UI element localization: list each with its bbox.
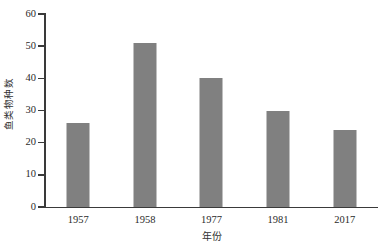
y-axis-tick-mark [38,142,44,143]
bar-1981[interactable] [267,111,290,208]
x-axis-tick-label: 1957 [68,214,89,225]
y-axis-title-text: 鱼类物种数 [1,77,15,130]
y-axis-tick-label: 0 [0,202,36,213]
y-axis-tick-label: 30 [0,105,36,116]
x-axis-tick-label: 1958 [134,214,155,225]
y-axis-tick-mark [38,78,44,79]
bar-slot [45,14,112,207]
y-axis-tick-mark [38,13,44,14]
x-axis-tick-label: 1981 [268,214,289,225]
y-axis-tick-mark [38,110,44,111]
bar-slot [245,14,312,207]
x-axis-tick-slot: 1957 [45,208,112,230]
bar-slot [112,14,179,207]
y-axis-tick-label: 40 [0,73,36,84]
x-axis-tick-label: 2017 [334,214,355,225]
y-axis-tick-label: 20 [0,137,36,148]
bar-1957[interactable] [67,123,90,207]
x-axis-ticks: 19571958197719812017 [45,208,378,230]
y-axis-tick-mark [38,206,44,207]
bar-slot [311,14,378,207]
bar-1977[interactable] [200,78,223,207]
y-axis-tick-label: 50 [0,41,36,52]
bars-layer [45,14,378,207]
bar-1958[interactable] [133,43,156,207]
bar-2017[interactable] [333,130,356,207]
x-axis-tick-label: 1977 [201,214,222,225]
x-axis-title: 年份 [45,228,378,243]
bar-chart: 鱼类物种数 0102030405060 19571958197719812017… [0,0,385,252]
y-axis-tick-mark [38,174,44,175]
y-axis-tick-label: 10 [0,169,36,180]
x-axis-tick-slot: 1977 [178,208,245,230]
x-axis-tick-slot: 2017 [311,208,378,230]
x-axis-tick-slot: 1981 [245,208,312,230]
bar-slot [178,14,245,207]
y-axis-tick-mark [38,45,44,46]
y-axis-tick-label: 60 [0,9,36,20]
x-axis-tick-slot: 1958 [112,208,179,230]
